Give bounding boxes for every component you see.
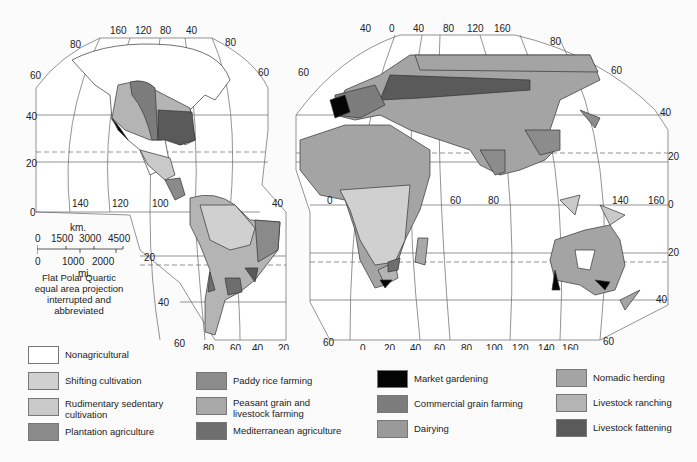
legend-swatch <box>196 422 227 440</box>
legend-item-rudimentary-sedentary: Rudimentary sedentary cultivation <box>28 398 175 420</box>
svg-text:120: 120 <box>467 23 484 34</box>
svg-text:20: 20 <box>26 158 38 169</box>
svg-text:80: 80 <box>225 37 237 48</box>
legend-item-livestock-ranching: Livestock ranching <box>556 394 672 412</box>
legend-swatch <box>556 369 587 387</box>
svg-text:160: 160 <box>110 25 127 36</box>
svg-text:60: 60 <box>174 338 186 349</box>
svg-text:160: 160 <box>562 343 579 350</box>
legend-swatch <box>556 394 587 412</box>
svg-text:140: 140 <box>538 343 555 350</box>
svg-text:40: 40 <box>158 297 170 308</box>
svg-text:40: 40 <box>410 343 422 350</box>
svg-text:140: 140 <box>612 195 629 206</box>
legend-swatch <box>28 346 59 364</box>
svg-text:80: 80 <box>488 195 500 206</box>
legend-item-livestock-fattening: Livestock fattening <box>556 419 672 437</box>
svg-text:60: 60 <box>230 343 242 350</box>
svg-text:80: 80 <box>443 23 455 34</box>
svg-text:20: 20 <box>668 247 680 258</box>
legend-swatch <box>377 420 408 438</box>
svg-text:60: 60 <box>450 195 462 206</box>
svg-text:40: 40 <box>186 25 198 36</box>
scale-ruler <box>37 245 129 255</box>
legend-swatch <box>196 397 227 415</box>
svg-text:40: 40 <box>656 294 668 305</box>
svg-text:40: 40 <box>360 23 372 34</box>
svg-text:120: 120 <box>512 343 529 350</box>
svg-text:20: 20 <box>384 343 396 350</box>
legend-swatch <box>28 423 59 441</box>
svg-text:60: 60 <box>434 343 446 350</box>
legend-swatch <box>28 372 59 390</box>
svg-text:20: 20 <box>668 151 680 162</box>
svg-text:40: 40 <box>272 198 284 209</box>
svg-text:60: 60 <box>30 70 42 81</box>
svg-text:0: 0 <box>668 199 674 210</box>
svg-text:40: 40 <box>26 111 38 122</box>
svg-text:40: 40 <box>413 23 425 34</box>
svg-text:60: 60 <box>298 67 310 78</box>
legend-item-nomadic-herding: Nomadic herding <box>556 369 665 387</box>
legend-item-commercial-grain: Commercial grain farming <box>377 395 523 413</box>
svg-text:40: 40 <box>660 107 672 118</box>
svg-text:120: 120 <box>135 25 152 36</box>
svg-text:80: 80 <box>70 39 82 50</box>
svg-text:60: 60 <box>323 337 335 348</box>
svg-text:20: 20 <box>144 252 156 263</box>
legend-item-nonagricultural: Nonagricultural <box>28 346 129 364</box>
svg-text:0: 0 <box>327 195 333 206</box>
projection-caption: Flat Polar Quartic equal area projection… <box>24 272 134 316</box>
legend-item-peasant-grain: Peasant grain and livestock farming <box>196 397 348 419</box>
legend-swatch <box>556 419 587 437</box>
svg-text:60: 60 <box>258 67 270 78</box>
legend-swatch <box>377 395 408 413</box>
legend-item-mediterranean: Mediterranean agriculture <box>196 422 341 440</box>
legend-item-dairying: Dairying <box>377 420 449 438</box>
svg-text:20: 20 <box>278 343 290 350</box>
legend-item-plantation: Plantation agriculture <box>28 423 154 441</box>
svg-text:60: 60 <box>611 65 623 76</box>
svg-text:100: 100 <box>152 198 169 209</box>
scale-km-label: km. <box>70 222 86 233</box>
svg-text:80: 80 <box>550 36 562 47</box>
svg-text:80: 80 <box>160 25 172 36</box>
svg-text:0: 0 <box>360 343 366 350</box>
svg-text:0: 0 <box>30 207 36 218</box>
svg-text:160: 160 <box>494 23 511 34</box>
svg-text:160: 160 <box>648 195 665 206</box>
svg-text:120: 120 <box>112 198 129 209</box>
svg-text:60: 60 <box>603 336 615 347</box>
legend-swatch <box>196 372 227 390</box>
legend-item-market-gardening: Market gardening <box>377 370 488 388</box>
svg-text:40: 40 <box>252 343 264 350</box>
legend-swatch <box>28 398 59 416</box>
legend-item-paddy-rice: Paddy rice farming <box>196 372 312 390</box>
svg-text:0: 0 <box>389 23 395 34</box>
svg-text:80: 80 <box>203 343 215 350</box>
svg-text:80: 80 <box>461 343 473 350</box>
svg-text:100: 100 <box>486 343 503 350</box>
legend-item-shifting-cultivation: Shifting cultivation <box>28 372 142 390</box>
svg-text:140: 140 <box>72 198 89 209</box>
legend-swatch <box>377 370 408 388</box>
